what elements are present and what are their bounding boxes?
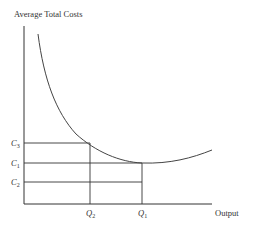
x-axis-label: Output bbox=[215, 208, 239, 218]
q2-label: Q2 bbox=[86, 208, 95, 219]
c2-label: C2 bbox=[11, 177, 20, 188]
atc-chart: Average Total Costs C3 C1 C2 Q2 Q1 Outpu… bbox=[0, 0, 256, 225]
c1-label: C1 bbox=[11, 158, 20, 169]
atc-curve bbox=[38, 34, 212, 163]
c3-label: C3 bbox=[11, 138, 20, 149]
chart-svg: Average Total Costs C3 C1 C2 Q2 Q1 Outpu… bbox=[0, 0, 256, 225]
y-axis-label: Average Total Costs bbox=[14, 9, 83, 19]
q1-label: Q1 bbox=[138, 208, 147, 219]
